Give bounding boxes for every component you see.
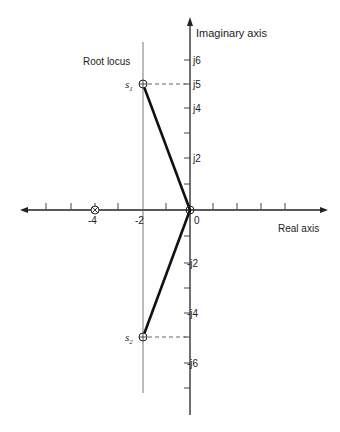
tick-label-minus-4: -4 bbox=[88, 215, 97, 226]
tick-label-neg-j2: -j2 bbox=[187, 258, 199, 269]
left-arrow-icon bbox=[20, 207, 28, 213]
locus-branch-lower bbox=[143, 210, 190, 337]
pole-s2-marker bbox=[139, 333, 147, 341]
tick-label-j2: j2 bbox=[192, 153, 201, 164]
tick-label-j6: j6 bbox=[192, 55, 201, 66]
pole-s1-marker bbox=[139, 80, 147, 88]
tick-label-j5: j5 bbox=[192, 79, 201, 90]
real-axis bbox=[20, 203, 328, 213]
tick-label-minus-2: -2 bbox=[135, 215, 144, 226]
s2-label: s2 bbox=[125, 331, 133, 346]
imaginary-axis-label: Imaginary axis bbox=[196, 27, 267, 39]
tick-label-neg-j6: -j6 bbox=[187, 358, 199, 369]
tick-label-j4: j4 bbox=[192, 103, 201, 114]
up-arrow-icon bbox=[187, 17, 193, 26]
root-locus-label: Root locus bbox=[83, 56, 130, 67]
root-locus-diagram: Imaginary axis Real axis Root locus s1 s… bbox=[0, 0, 340, 432]
s1-label: s1 bbox=[125, 78, 133, 93]
real-axis-label: Real axis bbox=[278, 223, 319, 234]
locus-branch-upper bbox=[143, 84, 190, 210]
tick-label-neg-j4: -j4 bbox=[187, 308, 199, 319]
marker-minus-4 bbox=[91, 206, 99, 214]
right-arrow-icon bbox=[320, 207, 328, 213]
origin-label: 0 bbox=[194, 215, 200, 226]
